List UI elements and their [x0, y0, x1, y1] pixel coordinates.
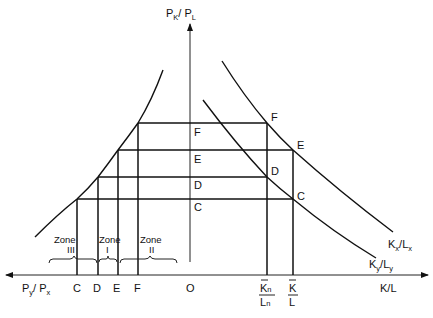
point-c-label: C	[297, 190, 305, 202]
horizontal-axis-left-label: Py/ Px	[22, 282, 51, 297]
k-l-ratio-label: K L	[288, 280, 298, 308]
left-axis-e: E	[113, 282, 120, 294]
factor-intensity-diagram: PK/ PL K/L Py/ Px O F E D C F E D C Kx/L…	[0, 0, 433, 318]
svg-text:Kn: Kn	[260, 282, 272, 294]
zone-iii: Zone III	[49, 234, 97, 263]
point-d-label: D	[271, 165, 279, 177]
origin-label: O	[186, 282, 195, 294]
ky-ly-label: Ky/Ly	[369, 258, 393, 273]
axis-level-d: D	[194, 179, 202, 191]
svg-text:III: III	[67, 244, 75, 255]
kn-ln-ratio-label: Kn Ln	[259, 280, 275, 308]
kx-lx-label: Kx/Lx	[388, 238, 412, 253]
svg-text:II: II	[149, 244, 154, 255]
zone-ii: Zone II	[120, 234, 177, 263]
point-e-label: E	[297, 139, 304, 151]
vertical-axis-label: PK/ PL	[166, 7, 196, 22]
axis-level-c: C	[194, 201, 202, 213]
point-f-label: F	[271, 111, 278, 123]
svg-text:Zone: Zone	[99, 234, 121, 245]
svg-text:K: K	[289, 282, 297, 294]
axis-level-f: F	[194, 126, 201, 138]
axis-level-e: E	[194, 153, 201, 165]
left-axis-c: C	[73, 282, 81, 294]
horizontal-axis-right-label: K/L	[380, 282, 397, 294]
svg-text:L: L	[289, 296, 295, 308]
svg-text:I: I	[106, 244, 109, 255]
left-axis-d: D	[93, 282, 101, 294]
left-price-curve	[35, 70, 163, 237]
svg-text:Ln: Ln	[260, 296, 270, 308]
kx-lx-curve	[222, 61, 393, 232]
left-axis-f: F	[134, 282, 141, 294]
